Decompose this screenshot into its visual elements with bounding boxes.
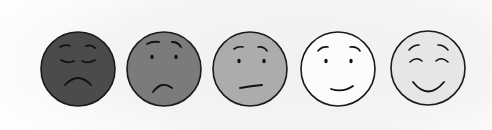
face-neutral[interactable] [213, 32, 287, 106]
left-eye-icon [150, 55, 153, 60]
face-scale-canvas [0, 0, 492, 130]
face-very-sad[interactable] [41, 32, 115, 106]
face-very-sad-circle [41, 32, 115, 106]
left-eye-icon [237, 59, 240, 64]
face-neutral-circle [213, 32, 287, 106]
left-eye-icon [324, 59, 327, 64]
face-sad[interactable] [127, 32, 201, 106]
face-happy[interactable] [301, 32, 375, 106]
face-sad-circle [127, 32, 201, 106]
face-very-happy-circle [391, 31, 465, 105]
face-happy-circle [301, 32, 375, 106]
right-eye-icon [262, 59, 265, 64]
right-eye-icon [174, 55, 177, 60]
face-very-happy[interactable] [391, 31, 465, 105]
right-eye-icon [349, 59, 352, 64]
face-rating-scale [0, 0, 492, 130]
